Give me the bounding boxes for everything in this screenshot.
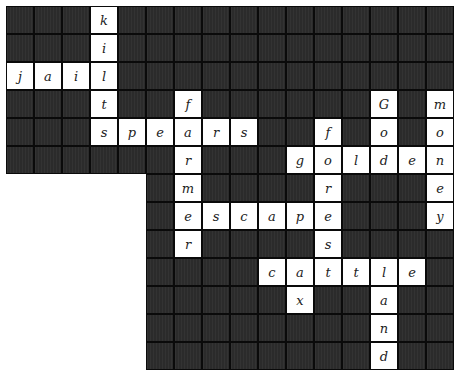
block-cell [118, 34, 146, 62]
letter-cell[interactable]: t [342, 258, 370, 286]
block-cell [342, 90, 370, 118]
block-cell [370, 230, 398, 258]
block-cell [118, 62, 146, 90]
letter-cell[interactable]: l [90, 62, 118, 90]
block-cell [370, 174, 398, 202]
letter-cell[interactable]: a [258, 202, 286, 230]
letter-cell[interactable]: a [34, 62, 62, 90]
block-cell [202, 90, 230, 118]
cell-letter: t [101, 97, 106, 112]
block-cell [314, 342, 342, 370]
letter-cell[interactable]: l [342, 146, 370, 174]
letter-cell[interactable]: t [90, 90, 118, 118]
letter-cell[interactable]: c [258, 258, 286, 286]
letter-cell[interactable]: i [62, 62, 90, 90]
letter-cell[interactable]: s [202, 202, 230, 230]
block-cell [398, 286, 426, 314]
cell-letter: o [436, 125, 444, 140]
letter-cell[interactable]: x [286, 286, 314, 314]
letter-cell[interactable]: a [174, 118, 202, 146]
letter-cell[interactable]: e [314, 202, 342, 230]
cell-letter: y [436, 209, 443, 224]
letter-cell[interactable]: p [118, 118, 146, 146]
block-cell [398, 62, 426, 90]
letter-cell[interactable]: r [202, 118, 230, 146]
letter-cell[interactable]: a [286, 258, 314, 286]
letter-cell[interactable]: p [286, 202, 314, 230]
letter-cell[interactable]: o [314, 146, 342, 174]
block-cell [314, 62, 342, 90]
cell-letter: s [325, 237, 332, 252]
block-cell [258, 174, 286, 202]
letter-cell[interactable]: c [230, 202, 258, 230]
letter-cell[interactable]: r [174, 146, 202, 174]
cell-letter: n [380, 321, 388, 336]
letter-cell[interactable]: y [426, 202, 454, 230]
block-cell [202, 258, 230, 286]
block-cell [426, 6, 454, 34]
cell-letter: s [241, 125, 248, 140]
block-cell [6, 146, 34, 174]
letter-cell[interactable]: l [370, 258, 398, 286]
cell-letter: l [102, 69, 106, 84]
block-cell [62, 146, 90, 174]
letter-cell[interactable]: o [426, 118, 454, 146]
letter-cell[interactable]: o [370, 118, 398, 146]
block-cell [286, 118, 314, 146]
cell-letter: f [186, 97, 191, 112]
letter-cell[interactable]: e [174, 202, 202, 230]
cell-letter: p [128, 125, 136, 140]
cell-letter: p [296, 209, 304, 224]
block-cell [146, 62, 174, 90]
letter-cell[interactable]: a [370, 286, 398, 314]
block-cell [146, 230, 174, 258]
letter-cell[interactable]: d [370, 342, 398, 370]
letter-cell[interactable]: f [314, 118, 342, 146]
block-cell [426, 230, 454, 258]
block-cell [146, 286, 174, 314]
block-cell [342, 6, 370, 34]
letter-cell[interactable]: e [426, 174, 454, 202]
letter-cell[interactable]: k [90, 6, 118, 34]
block-cell [342, 62, 370, 90]
letter-cell[interactable]: r [314, 174, 342, 202]
cell-letter: e [324, 209, 332, 224]
letter-cell[interactable]: r [174, 230, 202, 258]
letter-cell[interactable]: G [370, 90, 398, 118]
block-cell [398, 118, 426, 146]
block-cell [230, 230, 258, 258]
block-cell [258, 90, 286, 118]
cell-letter: e [408, 265, 416, 280]
block-cell [202, 342, 230, 370]
block-cell [146, 202, 174, 230]
letter-cell[interactable]: e [398, 146, 426, 174]
letter-cell[interactable]: t [314, 258, 342, 286]
cell-letter: s [101, 125, 108, 140]
letter-cell[interactable]: j [6, 62, 34, 90]
letter-cell[interactable]: s [230, 118, 258, 146]
letter-cell[interactable]: e [146, 118, 174, 146]
cell-letter: i [74, 69, 78, 84]
block-cell [174, 314, 202, 342]
letter-cell[interactable]: i [90, 34, 118, 62]
letter-cell[interactable]: s [314, 230, 342, 258]
block-cell [426, 314, 454, 342]
block-cell [286, 230, 314, 258]
block-cell [398, 342, 426, 370]
letter-cell[interactable]: g [286, 146, 314, 174]
letter-cell[interactable]: e [398, 258, 426, 286]
cell-letter: f [326, 125, 331, 140]
letter-cell[interactable]: d [370, 146, 398, 174]
cell-letter: e [184, 209, 192, 224]
letter-cell[interactable]: m [174, 174, 202, 202]
cell-letter: a [184, 125, 192, 140]
block-cell [314, 6, 342, 34]
block-cell [202, 174, 230, 202]
block-cell [146, 90, 174, 118]
letter-cell[interactable]: n [370, 314, 398, 342]
letter-cell[interactable]: m [426, 90, 454, 118]
block-cell [118, 6, 146, 34]
letter-cell[interactable]: n [426, 146, 454, 174]
letter-cell[interactable]: f [174, 90, 202, 118]
letter-cell[interactable]: s [90, 118, 118, 146]
